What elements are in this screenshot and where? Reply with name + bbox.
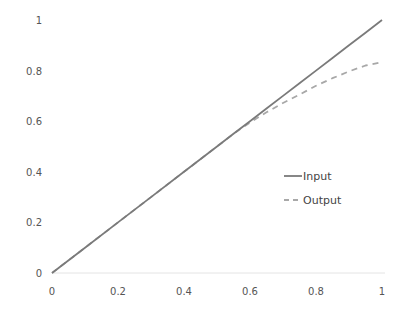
y-axis-ticks: 00.20.40.60.81 [26, 15, 42, 279]
input-legend-label: Input [303, 170, 332, 183]
x-tick-label: 0.6 [242, 286, 258, 297]
x-tick-label: 0.4 [176, 286, 192, 297]
x-tick-label: 0.2 [110, 286, 126, 297]
output-legend-label: Output [303, 194, 342, 207]
x-tick-label: 0 [49, 286, 55, 297]
input-line [52, 20, 382, 273]
legend: InputOutput [284, 170, 342, 207]
output-line [52, 62, 382, 273]
y-tick-label: 0.4 [26, 167, 42, 178]
x-axis-ticks: 00.20.40.60.81 [49, 286, 385, 297]
plot-series [52, 20, 382, 273]
chart: 00.20.40.60.81 00.20.40.60.81 InputOutpu… [0, 0, 408, 311]
y-tick-label: 0 [36, 268, 42, 279]
x-tick-label: 1 [379, 286, 385, 297]
y-tick-label: 0.2 [26, 217, 42, 228]
y-tick-label: 0.6 [26, 116, 42, 127]
x-tick-label: 0.8 [308, 286, 324, 297]
y-tick-label: 0.8 [26, 66, 42, 77]
y-tick-label: 1 [36, 15, 42, 26]
